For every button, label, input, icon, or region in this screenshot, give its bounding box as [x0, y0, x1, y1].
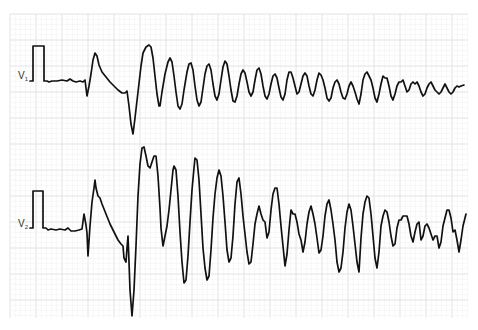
- ecg-trace-lead-2: [30, 147, 466, 316]
- lead-name: V: [18, 218, 25, 229]
- lead-name: V: [18, 70, 25, 81]
- ecg-strip: [0, 0, 478, 330]
- lead-subscript: 2: [25, 224, 28, 230]
- ecg-grid: [10, 14, 468, 318]
- ecg-trace-lead-1: [30, 45, 464, 134]
- lead-subscript: 1: [25, 76, 28, 82]
- lead-label-v1: V1: [18, 70, 28, 82]
- lead-label-v2: V2: [18, 218, 28, 230]
